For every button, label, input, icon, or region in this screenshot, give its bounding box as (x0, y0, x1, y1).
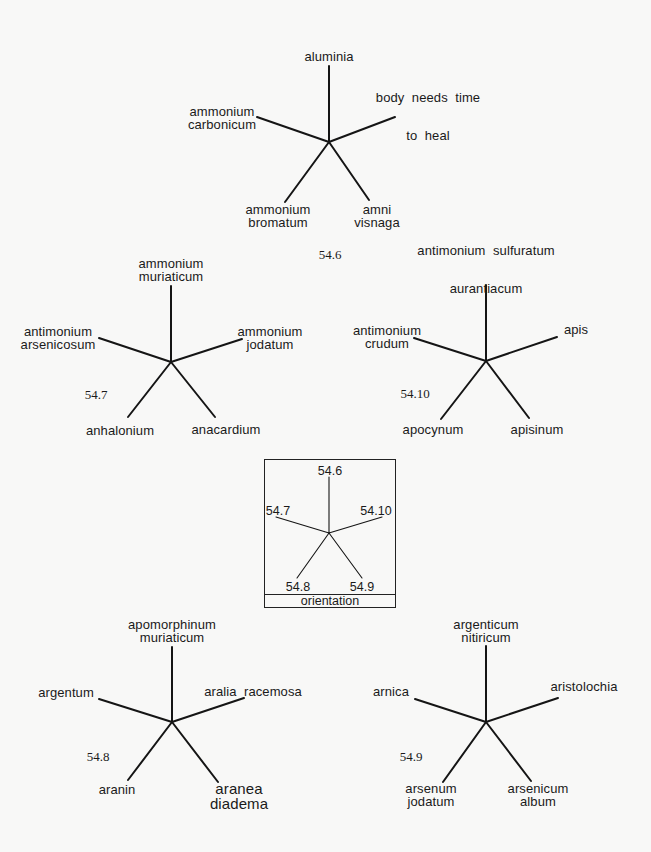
star-54-10-left-label: antimonium crudum (353, 325, 421, 350)
star-54-10-bottom-left-label: apocynum (403, 424, 464, 437)
star-54-8-top-label: apomorphinum muriaticum (128, 619, 216, 644)
star-54-6-bottom-right-label: amni visnaga (354, 204, 400, 229)
label-line: muriaticum (128, 631, 216, 644)
star-54-6-number: 54.6 (319, 247, 342, 263)
label-line: apis (564, 324, 588, 337)
label-line: diadema (210, 796, 268, 811)
label-line: to heal (376, 130, 480, 143)
star-54-8-number: 54.8 (87, 749, 110, 765)
label-line: jodatum (237, 338, 302, 351)
label-line: nitiricum (453, 631, 518, 644)
star-54-9-left-label: arnica (373, 686, 409, 699)
label-line: apocynum (403, 424, 464, 437)
label-line: aranea (210, 781, 268, 796)
label-line: aurantiacum (417, 283, 554, 296)
label-line: aristolochia (551, 681, 618, 694)
label-line: aluminia (304, 51, 353, 64)
star-54-7-spokes (99, 286, 242, 417)
orientation-right-label: 54.10 (360, 504, 391, 518)
star-54-9-bottom-left-label: arsenum jodatum (405, 783, 456, 808)
star-54-9-number: 54.9 (400, 749, 423, 765)
label-line: muriaticum (138, 270, 203, 283)
star-54-6-spokes (257, 66, 395, 202)
label-line: arnica (373, 686, 409, 699)
label-line: aralia racemosa (204, 686, 302, 699)
star-54-8-right-label: aralia racemosa (204, 661, 302, 724)
star-54-8-left-label: argentum (38, 687, 94, 700)
star-54-10-top-label: antimonium sulfuratum aurantiacum (417, 220, 554, 320)
star-54-7-right-label: ammonium jodatum (237, 326, 302, 351)
orientation-top-label: 54.6 (318, 464, 342, 478)
label-line: argentum (38, 687, 94, 700)
star-54-10-right-label: apis (564, 324, 588, 337)
star-54-9-right-label: aristolochia (551, 681, 618, 694)
star-54-9-top-label: argenticum nitiricum (453, 619, 518, 644)
star-54-6-bottom-left-label: ammonium bromatum (245, 204, 310, 229)
label-line: album (508, 795, 569, 808)
star-54-9-bottom-right-label: arsenicum album (508, 783, 569, 808)
star-54-10-number: 54.10 (400, 386, 429, 402)
star-54-7-left-label: antimonium arsenicosum (21, 326, 96, 351)
diagram-canvas: aluminia ammonium carbonicum body needs … (0, 0, 651, 852)
label-line: carbonicum (188, 118, 256, 131)
orientation-key: orientation (264, 459, 396, 608)
orientation-left-label: 54.7 (266, 504, 290, 518)
label-line: anacardium (192, 424, 261, 437)
orientation-bottom-left-label: 54.8 (286, 580, 310, 594)
orientation-title: orientation (265, 595, 395, 607)
label-line: body needs time (376, 92, 480, 105)
label-line: antimonium sulfuratum (417, 245, 554, 258)
label-line: anhalonium (86, 425, 154, 438)
label-line: crudum (353, 337, 421, 350)
star-54-6-top-label: aluminia (304, 51, 353, 64)
star-54-6-left-label: ammonium carbonicum (188, 106, 256, 131)
star-54-9-spokes (415, 646, 558, 782)
star-54-7-bottom-right-label: anacardium (192, 424, 261, 437)
star-54-6-right-label: body needs time to heal (376, 67, 480, 167)
label-line: arsenicosum (21, 338, 96, 351)
star-54-7-bottom-left-label: anhalonium (86, 425, 154, 438)
label-line: aranin (99, 784, 136, 797)
label-line: apisinum (511, 424, 564, 437)
label-line: visnaga (354, 216, 400, 229)
label-line: bromatum (245, 216, 310, 229)
star-54-10-bottom-right-label: apisinum (511, 424, 564, 437)
star-54-8-bottom-right-label: aranea diadema (210, 781, 268, 811)
star-54-8-bottom-left-label: aranin (99, 784, 136, 797)
label-line: jodatum (405, 795, 456, 808)
orientation-bottom-right-label: 54.9 (350, 580, 374, 594)
star-54-7-number: 54.7 (85, 387, 108, 403)
star-54-7-top-label: ammonium muriaticum (138, 258, 203, 283)
